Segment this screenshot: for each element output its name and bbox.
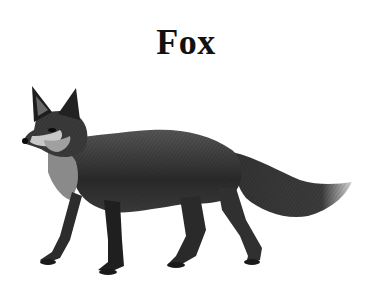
fox-icon <box>0 80 372 291</box>
fox-illustration <box>0 80 372 291</box>
page-title: Fox <box>0 22 372 62</box>
